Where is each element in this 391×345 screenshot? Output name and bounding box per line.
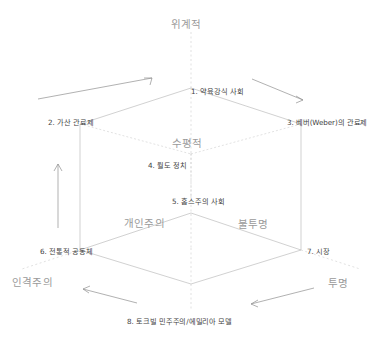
vertex-label-6: 6. 전통적 공동체 (40, 248, 92, 256)
edge-6-8 (80, 250, 191, 284)
arrow-bottom-left (83, 286, 137, 303)
axis-label-personalism: 인격주의 (12, 277, 53, 289)
edge-1-2 (80, 88, 191, 124)
edge-7-8 (191, 250, 301, 284)
axis-label-opaque: 불투명 (238, 219, 269, 231)
vertex-label-2: 2. 가산 관료제 (48, 119, 94, 127)
vertex-label-1: 1. 약육강식 사회 (191, 88, 243, 96)
arrow-top-left (38, 78, 152, 99)
arrow-left-side (54, 164, 62, 228)
vertex-label-7: 7. 시장 (307, 248, 330, 256)
vertex-label-8: 8. 토크빌 민주주의/에밀리아 모델 (127, 318, 232, 326)
axis-label-horizontal: 수평적 (172, 138, 203, 150)
diagram-canvas: 위계적 수평적 개인주의 불투명 인격주의 투명 1. 약육강식 사회 2. 가… (0, 0, 391, 345)
axis-label-transparent: 투명 (328, 278, 348, 290)
arrow-bottom-right (251, 288, 314, 307)
axis-label-hierarchical: 위계적 (171, 19, 202, 31)
vertex-label-5: 5. 홉스주의 사회 (172, 198, 224, 206)
axis-label-individualism: 개인주의 (124, 218, 165, 230)
cube-graphic (0, 0, 391, 345)
vertex-label-4: 4. 월도 정치 (148, 162, 187, 170)
edge-3-4 (191, 124, 301, 154)
vertex-label-3: 3. 베버(Weber)의 관료제 (287, 119, 367, 127)
arrow-top-right (252, 79, 303, 103)
